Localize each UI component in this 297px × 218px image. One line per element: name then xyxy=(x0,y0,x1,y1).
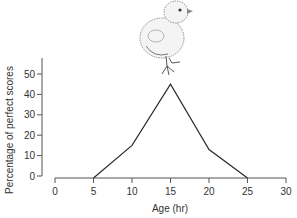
y-tick-label: 20 xyxy=(24,130,36,141)
y-tick-label: 40 xyxy=(24,89,36,100)
x-tick-label: 0 xyxy=(52,186,58,197)
y-tick-label: 30 xyxy=(24,109,36,120)
chick-illustration-icon xyxy=(140,1,193,75)
x-tick-label: 30 xyxy=(280,186,292,197)
y-tick-label: 10 xyxy=(24,150,36,161)
x-tick-label: 10 xyxy=(126,186,138,197)
x-axis: 051015202530 Age (hr) xyxy=(52,178,292,214)
line-chart: 01020304050 Percentage of perfect scores… xyxy=(0,0,297,218)
x-tick-label: 15 xyxy=(165,186,177,197)
x-tick-label: 25 xyxy=(242,186,254,197)
y-tick-label: 50 xyxy=(24,69,36,80)
data-line xyxy=(94,84,248,178)
y-tick-label: 0 xyxy=(29,171,35,182)
x-tick-label: 5 xyxy=(91,186,97,197)
x-tick-label: 20 xyxy=(203,186,215,197)
y-axis-title: Percentage of perfect scores xyxy=(4,66,15,194)
y-axis: 01020304050 Percentage of perfect scores xyxy=(4,58,42,194)
x-axis-title: Age (hr) xyxy=(152,203,188,214)
